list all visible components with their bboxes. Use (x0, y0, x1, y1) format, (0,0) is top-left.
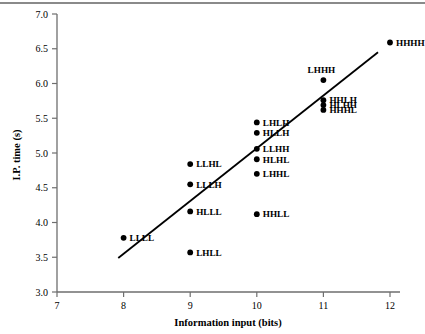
data-point-label: LLLH (196, 180, 222, 190)
x-tick-label: 8 (121, 300, 126, 311)
x-axis-ticks: 789101112 (55, 292, 396, 311)
data-point-marker (321, 77, 327, 83)
y-tick-label: 6.0 (36, 78, 49, 89)
data-point: LLHL (187, 159, 221, 169)
data-point-marker (321, 107, 327, 113)
y-tick-label: 3.0 (36, 287, 49, 298)
y-tick-label: 4.5 (36, 182, 49, 193)
data-point: LHLH (254, 118, 289, 128)
top-divider-rule (0, 2, 425, 4)
data-point-marker (254, 171, 260, 177)
data-point-label: HLHL (263, 155, 290, 165)
data-point-label: LHHH (308, 65, 336, 75)
y-tick-label: 5.5 (36, 113, 49, 124)
x-tick-label: 12 (385, 300, 395, 311)
data-point-marker (387, 40, 393, 46)
data-point: LHLL (187, 248, 221, 258)
data-point-label: HLLH (263, 128, 290, 138)
data-point-marker (187, 161, 193, 167)
data-point-label: LLLL (130, 233, 155, 243)
data-point: HHLL (254, 209, 289, 219)
figure-container: 3.03.54.04.55.05.56.06.57.0 789101112 LL… (0, 0, 425, 334)
y-axis-title: I.P. time (s) (11, 129, 23, 180)
x-tick-label: 7 (55, 300, 60, 311)
data-point-marker (187, 208, 193, 214)
data-point-marker (254, 120, 260, 126)
data-point: HHHL (321, 105, 357, 115)
data-point: LHHL (254, 169, 289, 179)
data-point-marker (187, 181, 193, 187)
scatter-plot: 3.03.54.04.55.05.56.06.57.0 789101112 LL… (0, 0, 425, 334)
data-point: LHHH (308, 65, 336, 83)
data-point-label: LLHH (263, 144, 290, 154)
axes-group (57, 14, 400, 292)
data-point-label: HHHL (329, 105, 357, 115)
y-tick-label: 5.0 (36, 148, 49, 159)
data-point-marker (254, 211, 260, 217)
fit-line-segment (118, 52, 378, 258)
y-tick-label: 4.0 (36, 217, 49, 228)
x-tick-label: 9 (188, 300, 193, 311)
data-point-label: LLHL (196, 159, 222, 169)
data-point-marker (254, 130, 260, 136)
data-point: LLLL (121, 233, 154, 243)
data-points-group: LLLLLLHLLLLHHLLLLHLLLHLHHLLHLLHHHLHLLHHL… (121, 38, 425, 258)
y-axis-ticks: 3.03.54.04.55.05.56.06.57.0 (36, 9, 58, 298)
data-point-label: HLLL (196, 207, 222, 217)
data-point: HLLL (187, 207, 221, 217)
y-tick-label: 7.0 (36, 9, 49, 20)
x-tick-label: 10 (252, 300, 262, 311)
data-point: HHHH (387, 38, 424, 48)
data-point-label: HHHH (396, 38, 425, 48)
data-point-marker (121, 235, 127, 241)
data-point: LLLH (187, 180, 221, 190)
data-point-label: HHLL (263, 209, 290, 219)
data-point-marker (254, 156, 260, 162)
y-tick-label: 3.5 (36, 252, 49, 263)
y-tick-label: 6.5 (36, 43, 49, 54)
data-point-marker (254, 146, 260, 152)
data-point: HLHL (254, 155, 289, 165)
data-point-label: LHLH (263, 118, 290, 128)
data-point-label: LHLL (196, 248, 222, 258)
regression-line (118, 52, 378, 258)
data-point-label: LHHL (263, 169, 290, 179)
data-point: HLLH (254, 128, 289, 138)
x-axis-title: Information input (bits) (174, 317, 282, 329)
x-tick-label: 11 (319, 300, 329, 311)
data-point-marker (187, 249, 193, 255)
